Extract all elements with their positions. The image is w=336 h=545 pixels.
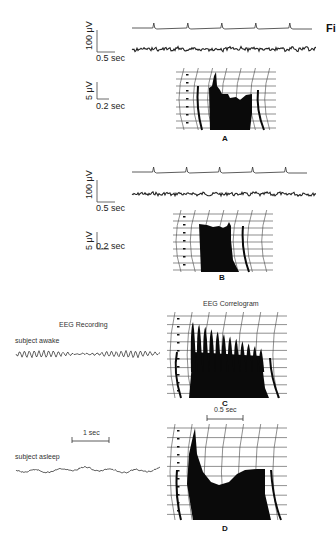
panel-letter-a: A	[222, 134, 228, 143]
grid-tick	[177, 326, 180, 328]
marker-pulse-line	[132, 167, 307, 173]
grid-tick	[183, 256, 186, 258]
grid-tick	[186, 74, 189, 76]
grid-tick	[177, 334, 180, 336]
correlogram-a	[176, 68, 276, 130]
marker-trace-a	[132, 20, 322, 32]
grid-tick	[177, 366, 180, 368]
correlogram-d	[167, 424, 287, 520]
amplitude-label-a: 100 μV	[84, 21, 94, 50]
grid-tick	[177, 350, 180, 352]
grid-tick	[177, 318, 180, 320]
correlogram-b	[173, 210, 273, 272]
correlogram-scale-bar-c	[206, 414, 246, 422]
grid-tick	[177, 374, 180, 376]
trace-label-awake: subject awake	[15, 337, 59, 344]
grid-tick	[183, 264, 186, 266]
trace-scale-bar-a	[95, 30, 125, 55]
correlogram-time-label-c: 0.5 sec	[214, 406, 237, 413]
grid-tick	[177, 454, 180, 456]
grid-tick	[177, 342, 180, 344]
panel-letter-b: B	[219, 273, 225, 282]
correlogram-peak	[203, 327, 208, 372]
correlogram-peak	[191, 322, 196, 372]
time-label-b: 0.5 sec	[96, 203, 125, 213]
trace-scale-bar-d	[71, 436, 111, 444]
trace-scale-bar-b	[95, 180, 125, 205]
grid-arc	[170, 424, 175, 520]
grid-tick	[186, 90, 189, 92]
correlogram-amplitude-label-b: 5 μV	[84, 231, 94, 250]
correlogram-peak	[197, 324, 202, 372]
eeg-trace-a	[132, 42, 317, 56]
panel-letter-d: D	[222, 524, 228, 533]
correlogram-c	[167, 312, 287, 398]
correlogram-time-label-b: 0.2 sec	[96, 241, 125, 251]
grid-tick	[186, 114, 189, 116]
grid-tick	[177, 430, 180, 432]
grid-tick	[183, 248, 186, 250]
marker-trace-b	[132, 164, 317, 176]
correlogram-time-label-a: 0.2 sec	[96, 101, 125, 111]
grid-tick	[177, 462, 180, 464]
trace-time-label-d: 1 sec	[83, 429, 100, 436]
grid-tick	[183, 232, 186, 234]
time-label-a: 0.5 sec	[96, 53, 125, 63]
grid-tick	[183, 224, 186, 226]
correlogram-amplitude-label-a: 5 μV	[84, 81, 94, 100]
grid-tick	[186, 82, 189, 84]
correlogram-peak	[216, 332, 221, 372]
grid-tick	[186, 106, 189, 108]
grid-tick	[177, 438, 180, 440]
trace-label-asleep: subject asleep	[15, 453, 60, 460]
grid-arc	[179, 68, 184, 130]
grid-tick	[183, 216, 186, 218]
eeg-trace-awake	[16, 347, 161, 361]
heading-eeg-correlogram: EEG Correlogram	[203, 300, 259, 307]
marker-pulse-line	[132, 23, 312, 29]
grid-tick	[177, 358, 180, 360]
grid-tick	[183, 240, 186, 242]
correlogram-peak	[259, 348, 264, 372]
grid-tick	[186, 122, 189, 124]
figure-label-fragment: Fi	[326, 22, 336, 34]
grid-tick	[186, 98, 189, 100]
grid-tick	[177, 446, 180, 448]
eeg-trace-b	[132, 187, 317, 201]
amplitude-label-b: 100 μV	[84, 170, 94, 199]
heading-eeg-recording: EEG Recording	[59, 321, 108, 328]
eeg-trace-asleep	[16, 463, 161, 477]
correlogram-peak	[222, 334, 227, 372]
correlogram-scale-bar-a	[95, 82, 125, 102]
grid-arc	[265, 68, 270, 130]
